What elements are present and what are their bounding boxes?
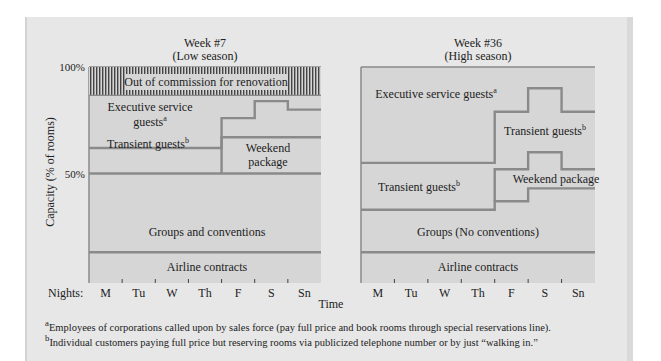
band-label-groups: Groups and conventions (149, 225, 266, 239)
footnote-a: aEmployees of corporations called upon b… (45, 318, 551, 333)
band-label-renovation: Out of commission for renovation (124, 75, 287, 89)
chart-week-36: MTuWThFSSnExecutive service guestsaTrans… (361, 67, 599, 300)
band-label-weekend: Weekend (246, 141, 290, 155)
x-tick-label: Tu (405, 286, 418, 300)
x-tick-label: W (439, 286, 451, 300)
band-label-weekend: Weekend package (513, 172, 600, 186)
x-tick-label: M (372, 286, 383, 300)
x-tick-label: M (100, 286, 111, 300)
chart-title-left: Week #7 (184, 36, 226, 50)
band-label-executive: Executive service (108, 100, 193, 114)
band-label-transient: Transient guestsb (504, 123, 586, 138)
x-tick-label: S (542, 286, 549, 300)
band-label-groups: Groups (No conventions) (417, 225, 539, 239)
band-label-executive-2: guestsa (133, 114, 167, 129)
chart-title-right: Week #36 (454, 36, 502, 50)
x-tick-label: W (166, 286, 178, 300)
band-label-airline: Airline contracts (438, 260, 519, 274)
x-tick-label: Th (471, 286, 484, 300)
y-tick-label: 100% (59, 61, 85, 73)
y-tick-label: 50% (65, 168, 85, 180)
footnote-b-text: Individual customers paying full price b… (49, 337, 537, 348)
footnote-b: bIndividual customers paying full price … (45, 333, 538, 348)
nights-label: Nights: (48, 286, 83, 300)
x-tick-label: S (268, 286, 275, 300)
x-tick-label: Sn (298, 286, 311, 300)
footnote-a-text: Employees of corporations called upon by… (49, 322, 551, 333)
chart-subtitle-right: (High season) (445, 49, 512, 63)
x-tick-label: Sn (572, 286, 585, 300)
band-label-weekend-2: package (248, 155, 287, 169)
x-axis-label: Time (319, 297, 344, 311)
band-label-executive: Executive service guestsa (375, 86, 497, 101)
chart-subtitle-left: (Low season) (173, 49, 238, 63)
band-label-airline: Airline contracts (167, 260, 248, 274)
x-tick-label: F (508, 286, 515, 300)
x-tick-label: F (235, 286, 242, 300)
x-tick-label: Th (198, 286, 211, 300)
band-label-transient-low: Transient guestsb (378, 179, 460, 194)
chart-week-7: MTuWThFSSn50%100%Out of commission for r… (59, 61, 321, 300)
chart-svg: MTuWThFSSn50%100%Out of commission for r… (0, 0, 661, 361)
x-tick-label: Tu (132, 286, 145, 300)
y-axis-label: Capacity (% of rooms) (43, 117, 57, 227)
band-label-transient: Transient guestsb (107, 136, 189, 151)
